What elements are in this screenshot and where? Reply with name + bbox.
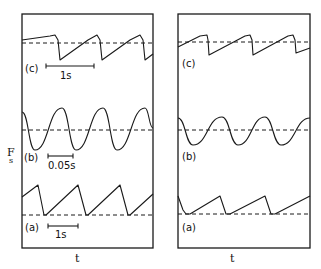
right-panel-frame — [178, 14, 310, 248]
left-x-axis-label: t — [75, 252, 80, 265]
figure: (c) 1s (b) 0.05s (a) 1s F s t (c) — [0, 0, 321, 269]
left-y-axis-subscript: s — [9, 156, 13, 165]
right-a-label: (a) — [182, 222, 196, 233]
left-c-label: (c) — [25, 63, 38, 74]
right-b-curve — [178, 117, 310, 145]
left-c-curve — [22, 35, 153, 60]
left-b-label: (b) — [24, 152, 38, 163]
left-b-curve — [22, 108, 153, 150]
left-a-curve — [22, 185, 153, 215]
right-c-label: (c) — [182, 58, 195, 69]
right-a-curve — [178, 196, 310, 214]
left-c-scale-label: 1s — [60, 70, 72, 81]
left-a-scale-label: 1s — [55, 229, 67, 240]
left-b-scale-label: 0.05s — [48, 160, 75, 171]
right-panel: (c) (b) (a) t — [178, 14, 310, 265]
right-b-label: (b) — [182, 151, 196, 162]
right-c-curve — [178, 35, 310, 55]
left-a-label: (a) — [25, 222, 39, 233]
right-x-axis-label: t — [230, 252, 235, 265]
left-panel-frame — [22, 14, 153, 248]
left-panel: (c) 1s (b) 0.05s (a) 1s F s t — [7, 14, 153, 265]
